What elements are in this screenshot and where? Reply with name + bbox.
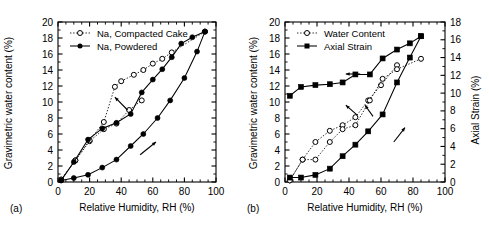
series-line-3	[61, 32, 205, 181]
x-tick-label: 80	[179, 186, 191, 197]
panel-b-tag: (b)	[247, 203, 259, 214]
y-tick-label: 12	[269, 81, 281, 92]
x-tick-label: 60	[375, 186, 387, 197]
data-point	[407, 41, 412, 46]
data-point	[128, 144, 133, 149]
data-point	[419, 34, 424, 39]
y-right-tick-label: 6	[450, 123, 456, 134]
data-point	[367, 72, 372, 77]
y-right-tick-label: 4	[450, 141, 456, 152]
y-tick-label: 4	[47, 145, 53, 156]
data-point	[168, 98, 173, 103]
data-point	[313, 157, 318, 162]
series-line-1	[61, 32, 205, 180]
data-point	[340, 80, 345, 85]
data-point	[327, 82, 332, 87]
data-point	[139, 90, 144, 95]
series-line-2	[61, 32, 205, 181]
data-point	[366, 129, 371, 134]
data-point	[327, 128, 332, 133]
panel-b-yaxis-right-label: Axial Strain (%)	[470, 76, 481, 145]
data-point	[327, 166, 332, 171]
y-tick-label: 16	[42, 49, 54, 60]
data-point	[287, 93, 292, 98]
y-right-tick-label: 18	[450, 17, 462, 28]
data-point	[353, 142, 358, 147]
y-tick-label: 20	[269, 17, 281, 28]
data-point	[100, 126, 105, 131]
y-tick-label: 14	[269, 65, 281, 76]
y-tick-label: 18	[269, 33, 281, 44]
y-tick-label: 8	[47, 113, 53, 124]
data-point	[182, 76, 187, 81]
y-tick-label: 12	[42, 81, 54, 92]
data-point	[407, 55, 412, 60]
panel-a-tag: (a)	[10, 203, 22, 214]
y-tick-label: 0	[274, 177, 280, 188]
y-tick-label: 14	[42, 65, 54, 76]
y-tick-label: 20	[42, 17, 54, 28]
y-tick-label: 18	[42, 33, 54, 44]
data-point	[155, 116, 160, 121]
y-right-tick-label: 2	[450, 159, 456, 170]
data-point	[395, 80, 400, 85]
y-tick-label: 10	[269, 97, 281, 108]
y-tick-label: 6	[47, 129, 53, 140]
panel-a-yaxis-label: Gravimetric water content (%)	[3, 37, 14, 169]
x-tick-label: 40	[343, 186, 355, 197]
data-point	[299, 175, 304, 180]
data-point	[160, 67, 165, 72]
data-point	[169, 55, 174, 60]
legend-marker-1	[78, 44, 83, 49]
data-point	[114, 157, 119, 162]
data-point	[190, 35, 195, 40]
x-tick-label: 80	[407, 186, 419, 197]
y-right-tick-label: 16	[450, 34, 462, 45]
data-point	[150, 61, 155, 66]
data-point	[395, 47, 400, 52]
series-line-2	[290, 36, 421, 177]
legend-label-1: Na, Powdered	[97, 41, 157, 52]
y-right-tick-label: 12	[450, 70, 462, 81]
panel-a-svg: 02040608010002468101214161820Na, Compact…	[0, 0, 244, 236]
y-right-tick-label: 10	[450, 88, 462, 99]
data-point	[139, 98, 144, 103]
x-tick-label: 40	[116, 186, 128, 197]
data-point	[195, 49, 200, 54]
data-point	[141, 132, 146, 137]
data-point	[101, 120, 106, 125]
panel-b-xaxis-label: Relative Humidity, RH (%)	[307, 202, 422, 213]
data-point	[380, 112, 385, 117]
data-point	[128, 112, 133, 117]
y-tick-label: 2	[274, 161, 280, 172]
legend-marker-0	[78, 31, 83, 36]
data-point	[353, 123, 358, 128]
legend-label-1: Axial Strain	[324, 41, 372, 52]
figure-container: 02040608010002468101214161820Na, Compact…	[0, 0, 489, 236]
data-point	[202, 29, 207, 34]
x-tick-label: 20	[84, 186, 96, 197]
data-point	[179, 41, 184, 46]
y-tick-label: 2	[47, 161, 53, 172]
data-point	[327, 140, 332, 145]
x-tick-label: 60	[147, 186, 159, 197]
y-right-tick-label: 14	[450, 52, 462, 63]
y-tick-label: 10	[42, 97, 54, 108]
data-point	[71, 160, 76, 165]
panel-a-xaxis-label: Relative Humidity, RH (%)	[79, 202, 194, 213]
data-point	[419, 56, 424, 61]
legend-marker-1	[305, 44, 310, 49]
y-tick-label: 8	[274, 113, 280, 124]
data-point	[86, 172, 91, 177]
data-point	[367, 98, 372, 103]
data-point	[395, 67, 400, 72]
panel-b-yaxis-label: Gravimetric water content (%)	[248, 37, 259, 169]
data-point	[150, 77, 155, 82]
data-point	[300, 157, 305, 162]
y-tick-label: 0	[47, 177, 53, 188]
data-point	[313, 172, 318, 177]
data-point	[119, 79, 124, 84]
x-tick-label: 0	[55, 186, 61, 197]
data-point	[299, 84, 304, 89]
legend-label-0: Water Content	[324, 28, 385, 39]
